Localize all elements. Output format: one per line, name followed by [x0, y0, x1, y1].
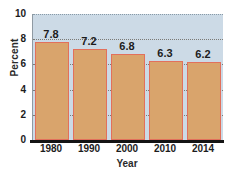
bar-value-label: 6.3: [157, 48, 172, 59]
y-axis-tick-label: 8: [20, 34, 26, 44]
x-axis-tick-label: 2014: [192, 144, 214, 154]
bar: [149, 61, 183, 140]
y-axis-tick-label: 2: [20, 110, 26, 120]
x-axis-tick-label: 1990: [78, 144, 100, 154]
bar: [111, 54, 145, 140]
bar: [73, 49, 107, 140]
x-axis-tick-label: 1980: [40, 144, 62, 154]
y-axis-tick-label: 10: [15, 9, 26, 19]
x-axis-tick-labels: 19801990200020102014: [32, 144, 222, 158]
x-axis-title: Year: [32, 158, 222, 169]
bar: [35, 42, 69, 140]
bar-chart: Percent 0246810 7.87.26.86.36.2 19801990…: [0, 0, 232, 172]
x-axis-tick-label: 2000: [116, 144, 138, 154]
bar-value-label: 6.8: [119, 41, 134, 52]
x-axis-tick-label: 2010: [154, 144, 176, 154]
bar-value-label: 6.2: [195, 49, 210, 60]
bar-value-label: 7.2: [81, 36, 96, 47]
y-axis-tick-labels: 0246810: [0, 0, 30, 172]
y-axis-tick-label: 6: [20, 59, 26, 69]
y-axis-tick-label: 0: [20, 135, 26, 145]
y-axis-tick-label: 4: [20, 85, 26, 95]
bar-value-label: 7.8: [43, 29, 58, 40]
bar: [187, 62, 221, 140]
bars-layer: [33, 14, 223, 140]
plot-area: [32, 14, 223, 140]
